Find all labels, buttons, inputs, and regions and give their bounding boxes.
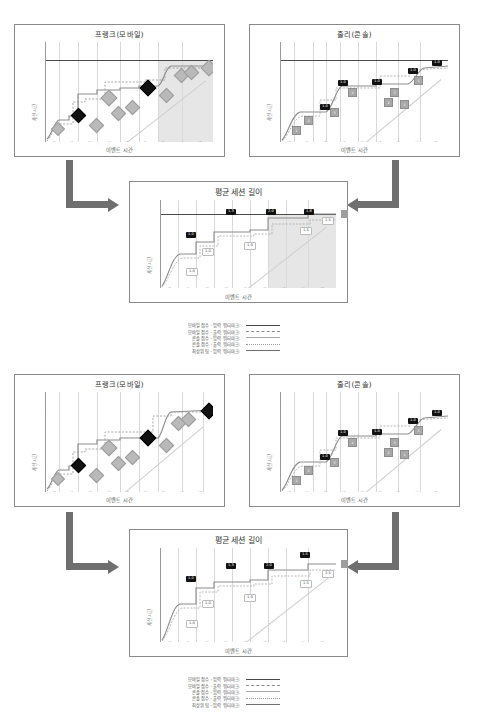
value-label: 1.5: [300, 552, 310, 558]
value-label: 1.0: [432, 60, 442, 66]
legend-swatch: [246, 344, 280, 345]
legend-swatch: [246, 350, 280, 351]
series-lines: [280, 42, 448, 142]
y-tick-label: 12:06: [45, 425, 46, 434]
legend-swatch: [246, 704, 280, 705]
y-tick-label: 12:00: [280, 481, 281, 490]
legend-swatch: [246, 331, 280, 332]
legend-label: 모바일 점수 - 입력 워터마크:: [166, 676, 246, 682]
y-tick-label: 12:08: [280, 56, 281, 65]
y-tick-label: 12:08: [45, 56, 46, 65]
plot-area-top-mid: 1.0 1.3 2.0 1.8 1.5 1.5 1.0 1.0 1.0 12:0…: [160, 200, 336, 288]
legend-row: 최상위 팀 - 입력 워터마크:: [166, 348, 280, 354]
series-lines: [45, 42, 213, 142]
count-box: 3: [330, 458, 339, 467]
y-tick-label: 12:02: [280, 112, 281, 121]
panel-bottom-right: 줄리(콘솔) 세션 시간 1.0 1.0 1.0 1.0: [249, 374, 460, 507]
x-axis-label-top-mid: 이벤트 시간: [130, 293, 347, 300]
value-label-outline: 1.0: [202, 248, 214, 256]
value-label: 1.0: [408, 68, 418, 74]
y-tick-label: 12:04: [280, 93, 281, 102]
y-axis-label-bot-mid: 세션 시간: [146, 609, 152, 626]
y-tick-label: 12:04: [280, 443, 281, 452]
x-axis-label-top-left: 이벤트 시간: [15, 146, 224, 153]
y-tick-label: 12:06: [280, 75, 281, 84]
chart-title-bot-mid: 평균 세션 길이: [130, 534, 347, 545]
y-axis-label-bot-left: 세션 시간: [31, 454, 37, 471]
legend-swatch: [246, 698, 280, 699]
y-tick-label: 12:00: [45, 131, 46, 140]
panel-top-right: 줄리(콘솔) 세션 시간 1.0 1.0: [249, 24, 460, 157]
y-tick-label: 12:10: [45, 42, 46, 46]
panel-top-middle: 평균 세션 길이 세션 시간 1.0 1.3: [129, 181, 348, 303]
legend-swatch: [246, 337, 280, 338]
y-tick-label: 12:02: [45, 112, 46, 121]
legend-swatch: [246, 325, 280, 326]
legend-label: 최상위 팀 - 입력 워터마크:: [166, 702, 246, 708]
count-box: 1: [400, 450, 409, 459]
flow-arrow-right-to-mid-2: [348, 512, 408, 582]
count-box: 1: [292, 476, 301, 485]
plot-area-top-left: 12:0012:0112:0212:0312:0412:0512:0612:07…: [45, 42, 213, 142]
value-label-outline: 1.5: [300, 227, 312, 235]
legend-label: 콘솔 점수 - 출력 워터마크:: [166, 695, 246, 701]
value-label: 1.3: [226, 563, 236, 569]
y-tick-label: 12:04: [45, 93, 46, 102]
panel-top-left: 프랭크(모바일) 세션 시간: [14, 24, 225, 157]
y-tick-label: 12:02: [160, 261, 161, 270]
count-box: 3: [390, 438, 399, 447]
value-label: 1.0: [432, 410, 442, 416]
plot-area-bot-left: 12:0012:0112:0212:0312:0412:0512:0612:07…: [45, 392, 213, 492]
y-tick-label: 12:10: [160, 200, 161, 204]
value-label: 1.0: [186, 576, 196, 582]
y-tick-label: 12:00: [160, 277, 161, 286]
plot-area-bot-right: 1.0 1.0 1.0 1.0 1.0 1 2 3 4 2 3 1 5 12:0…: [280, 392, 448, 492]
y-tick-label: 12:04: [160, 244, 161, 253]
y-tick-label: 12:00: [45, 481, 46, 490]
value-label-outline: 1.5: [300, 580, 312, 588]
y-tick-label: 12:06: [280, 425, 281, 434]
value-label: 2.0: [266, 209, 276, 215]
value-label-outline: 1.0: [244, 242, 256, 250]
plot-area-top-right: 1.0 1.0 1.0 1.0 1.0 1 2 3 4 2 3 1 5 12:0…: [280, 42, 448, 142]
count-box: 2: [304, 116, 313, 125]
count-box: 2: [384, 448, 393, 457]
y-tick-label: 12:10: [280, 42, 281, 46]
value-label-outline: 1.5: [322, 570, 334, 578]
y-axis-label-top-mid: 세션 시간: [146, 257, 152, 274]
count-box: 1: [400, 100, 409, 109]
value-label: 1.0: [320, 454, 330, 460]
y-tick-label: 12:02: [45, 462, 46, 471]
panel-bottom-left: 프랭크(모바일) 세션 시간: [14, 374, 225, 507]
value-label-outline: 1.0: [186, 620, 198, 628]
legend-swatch: [246, 685, 280, 686]
chart-title-top-mid: 평균 세션 길이: [130, 186, 347, 197]
legend-square-marker: [341, 560, 348, 568]
count-box: 5: [414, 426, 423, 435]
value-label-outline: 1.5: [322, 217, 334, 225]
legend-label: 콘솔 점수 - 입력 워터마크:: [166, 335, 246, 341]
y-tick-label: 12:10: [45, 392, 46, 396]
value-label: 1.0: [372, 79, 382, 85]
value-label-outline: 1.0: [202, 600, 214, 608]
chart-title-top-right: 줄리(콘솔): [250, 29, 459, 39]
value-label: 1.0: [408, 418, 418, 424]
y-tick-label: 12:06: [45, 75, 46, 84]
value-label: 1.0: [320, 104, 330, 110]
legend-label: 모바일 점수 - 출력 워터마크:: [166, 329, 246, 335]
plot-area-bot-mid: 1.0 1.3 2.0 1.5 1.5 1.5 1.0 1.0 1.0 12:0…: [160, 548, 336, 642]
count-box: 2: [384, 98, 393, 107]
value-label: 1.8: [304, 209, 314, 215]
chart-title-bot-right: 줄리(콘솔): [250, 379, 459, 389]
value-label: 2.0: [264, 563, 274, 569]
y-tick-label: 12:08: [160, 211, 161, 220]
legend-row: 최상위 팀 - 입력 워터마크:: [166, 702, 280, 708]
y-tick-label: 12:08: [160, 561, 161, 570]
count-box: 3: [330, 108, 339, 117]
legend-bottom: 모바일 점수 - 입력 워터마크: 모바일 점수 - 출력 워터마크: 콘솔 점…: [166, 676, 280, 708]
legend-top: 모바일 점수 - 입력 워터마크: 모바일 점수 - 출력 워터마크: 콘솔 점…: [166, 322, 280, 354]
legend-label: 콘솔 점수 - 입력 워터마크:: [166, 689, 246, 695]
y-tick-label: 12:08: [280, 406, 281, 415]
series-lines: [45, 392, 213, 492]
value-label: 1.3: [226, 209, 236, 215]
